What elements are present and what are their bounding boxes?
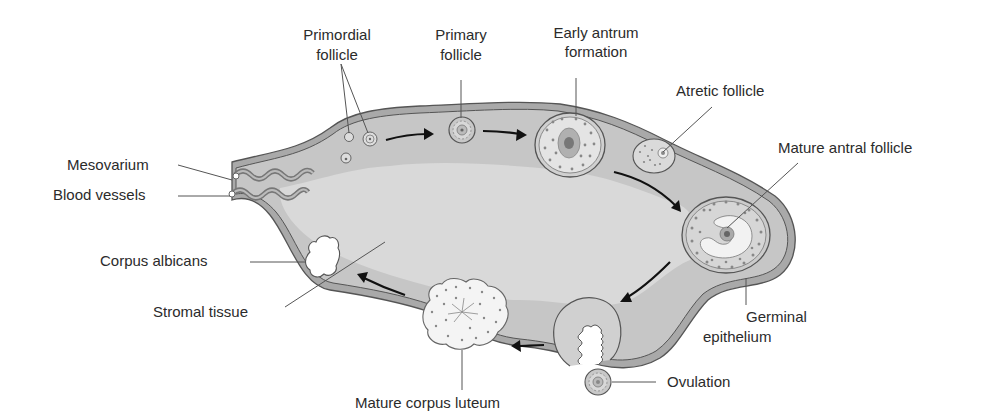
label-ovulation: Ovulation	[667, 373, 730, 390]
primary-follicle	[449, 117, 475, 143]
ovulated-oocyte	[585, 369, 611, 395]
label-mature-corpus-luteum: Mature corpus luteum	[355, 394, 500, 411]
label-primary-follicle: Primary	[435, 26, 487, 43]
early-antrum-follicle	[535, 113, 605, 177]
mature-antral-follicle	[682, 197, 770, 273]
label-mesovarium: Mesovarium	[67, 156, 149, 173]
label-early-antrum-2: formation	[565, 43, 628, 60]
label-primordial-follicle: Primordial	[303, 26, 371, 43]
label-primordial-follicle-2: follicle	[316, 46, 358, 63]
label-stromal-tissue: Stromal tissue	[153, 303, 248, 320]
label-early-antrum: Early antrum	[553, 24, 638, 41]
label-mature-antral-follicle: Mature antral follicle	[778, 139, 912, 156]
ruptured-follicle	[554, 298, 621, 366]
ovary-diagram: Primordial follicle Primary follicle Ear…	[0, 0, 984, 419]
label-primary-follicle-2: follicle	[440, 46, 482, 63]
label-blood-vessels: Blood vessels	[53, 186, 146, 203]
atretic-follicle	[633, 139, 675, 173]
label-atretic-follicle: Atretic follicle	[676, 82, 764, 99]
label-corpus-albicans: Corpus albicans	[100, 252, 208, 269]
label-germinal-epithelium-2: epithelium	[703, 328, 771, 345]
label-germinal-epithelium: Germinal	[746, 308, 807, 325]
